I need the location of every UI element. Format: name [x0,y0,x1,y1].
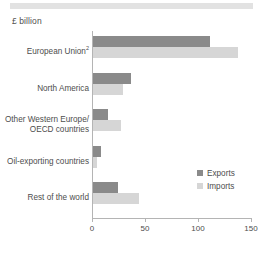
x-tick-mark [145,218,146,222]
header-band [10,3,253,9]
bar-exports [93,73,131,84]
x-tick-label: 100 [191,224,204,233]
category-label: European Union2 [3,47,89,57]
bar-exports [93,182,118,193]
x-tick-mark [92,218,93,222]
bar-imports [93,120,121,131]
bar-imports [93,157,97,168]
bar-imports [93,84,123,95]
legend: Exports Imports [197,167,235,193]
bar-exports [93,109,108,120]
x-tick-mark [198,218,199,222]
unit-label: £ billion [12,16,42,26]
bar-group: Other Western Europe/ OECD countries [0,108,263,141]
bar-imports [93,47,238,58]
x-tick-mark [251,218,252,222]
x-axis-line [92,218,252,219]
bar-exports [93,36,210,47]
chart-figure: £ billion 050100150 European Union2North… [0,0,263,254]
legend-swatch-exports [197,170,203,176]
legend-item-exports[interactable]: Exports [197,167,235,179]
bar-group: North America [0,72,263,105]
category-label: Rest of the world [3,193,89,203]
x-tick-label: 50 [141,224,150,233]
bar-imports [93,193,139,204]
footnote-marker: 2 [86,45,89,51]
legend-swatch-imports [197,183,203,189]
legend-label-exports: Exports [207,169,235,178]
legend-item-imports[interactable]: Imports [197,180,235,192]
category-label: Other Western Europe/ OECD countries [3,115,89,134]
legend-label-imports: Imports [207,182,234,191]
x-tick-label: 150 [244,224,257,233]
category-label: North America [3,84,89,94]
x-tick-label: 0 [90,224,94,233]
bar-group: European Union2 [0,35,263,68]
category-label: Oil-exporting countries [3,157,89,167]
bar-exports [93,146,101,157]
